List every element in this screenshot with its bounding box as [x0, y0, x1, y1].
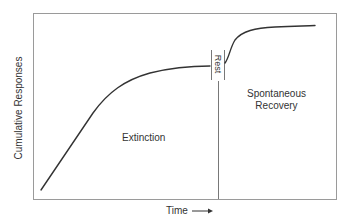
y-axis-label: Cumulative Responses [13, 57, 25, 160]
extinction-curve [41, 66, 210, 190]
spontaneous-recovery-curve [225, 26, 315, 64]
x-axis-label-text: Time [166, 205, 188, 217]
spontaneous-label-line2: Recovery [247, 100, 306, 112]
extinction-label: Extinction [122, 132, 165, 144]
spontaneous-label-line1: Spontaneous [247, 88, 306, 100]
x-axis-label: Time [166, 205, 214, 217]
chart-canvas [0, 0, 353, 224]
arrow-right-icon [192, 208, 214, 214]
spontaneous-recovery-label: Spontaneous Recovery [247, 88, 306, 111]
rest-label: Rest [213, 55, 223, 74]
